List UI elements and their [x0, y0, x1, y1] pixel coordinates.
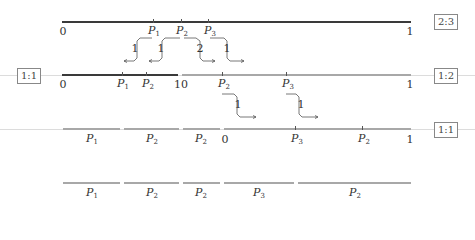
ratio-box-bottom: 1:1 — [434, 122, 458, 138]
row2-one-label: 1 — [407, 79, 414, 90]
row4-seg-p3-label: P3 — [253, 187, 265, 202]
row4-seg-p2c-label: P2 — [349, 187, 361, 202]
row3-one-label: 1 — [407, 134, 414, 145]
row2-left-line — [62, 74, 178, 76]
row3-seg-p2b — [183, 128, 220, 130]
row2-p2-label: P2 — [142, 78, 154, 93]
row2-right-line — [182, 74, 411, 76]
row3-seg-p1-label: P1 — [86, 133, 98, 148]
ratio-box-left: 1:1 — [17, 68, 41, 84]
weight-label-4: 1 — [224, 43, 231, 54]
tick-p3-row2 — [286, 72, 287, 76]
row4-seg-p2b — [183, 182, 220, 184]
row2-p3-label: P3 — [282, 78, 294, 93]
row3-p2-label: P2 — [358, 133, 370, 148]
row2-zero-label: 0 — [60, 79, 67, 90]
row3-seg-p1 — [63, 128, 120, 130]
weight-label-3: 2 — [197, 43, 204, 54]
row4-seg-p2c — [298, 182, 411, 184]
row2-ten-label: 10 — [174, 79, 188, 90]
weight-label-1: 1 — [132, 43, 139, 54]
weight-label-5: 1 — [235, 99, 242, 110]
ratio-box-right: 1:2 — [434, 68, 458, 84]
tick-p2-row2-right — [222, 72, 223, 76]
weight-label-6: 1 — [298, 99, 305, 110]
row3-seg-p2b-label: P2 — [195, 133, 207, 148]
row3-right-line — [224, 128, 411, 130]
tick-p1-row2 — [122, 72, 123, 76]
row3-seg-p2a-label: P2 — [146, 133, 158, 148]
row4-seg-p1 — [63, 182, 120, 184]
row3-zero-label: 0 — [222, 134, 229, 145]
row3-p3-label: P3 — [291, 133, 303, 148]
row2-p1-label: P1 — [117, 78, 129, 93]
row4-seg-p2b-label: P2 — [195, 187, 207, 202]
row3-seg-p2a — [124, 128, 179, 130]
tick-p2-row2 — [146, 72, 147, 76]
tick-p3-row3 — [295, 126, 296, 130]
row4-seg-p2a — [124, 182, 179, 184]
weight-label-2: 1 — [158, 43, 165, 54]
row4-seg-p3 — [224, 182, 294, 184]
row4-seg-p2a-label: P2 — [146, 187, 158, 202]
row4-seg-p1-label: P1 — [86, 187, 98, 202]
row2-p2-right-label: P2 — [218, 78, 230, 93]
tick-p2-row3 — [362, 126, 363, 130]
